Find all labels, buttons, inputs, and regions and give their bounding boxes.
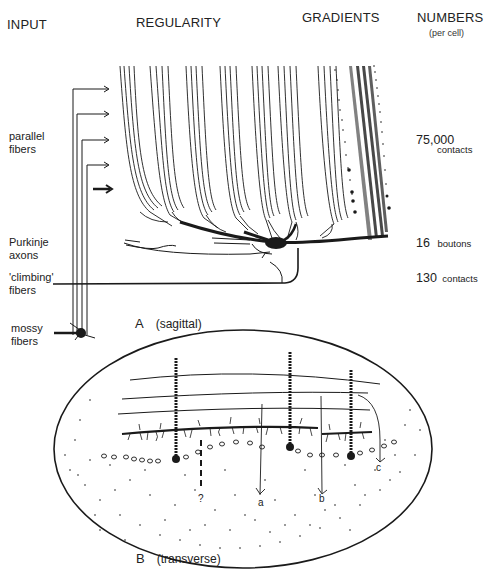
panel-a-diagram: ? a b c xyxy=(0,0,484,571)
folium-outline xyxy=(54,330,432,568)
marker-a: a xyxy=(258,497,264,508)
purkinje-cell xyxy=(124,222,388,258)
purkinje-dendrites xyxy=(120,66,348,240)
marker-c: c xyxy=(376,462,381,473)
input-arrows xyxy=(73,86,112,335)
gradient-stipple xyxy=(349,66,388,240)
parallel-fibers xyxy=(118,374,380,414)
panel-b-diagram xyxy=(54,330,432,568)
climbing-fiber-line xyxy=(53,248,298,284)
granular-layer-dots xyxy=(64,399,421,549)
marker-b: b xyxy=(319,493,325,504)
purkinje-vertical-somata xyxy=(172,443,355,463)
purkinje-vertical-dendrites xyxy=(176,352,351,458)
molecular-layer-baseline xyxy=(122,427,372,434)
marker-question: ? xyxy=(198,493,204,504)
dendritic-spines xyxy=(128,417,364,442)
